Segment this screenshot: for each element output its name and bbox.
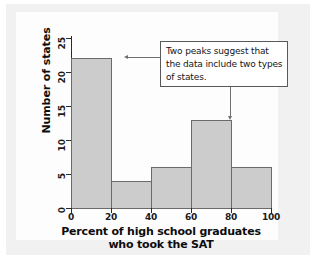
annotation-leader-left [126,57,160,58]
bar-20-40 [111,181,152,209]
y-tick-15 [66,106,71,107]
bar-40-60 [151,167,192,209]
x-tick-label-0: 0 [56,212,86,222]
annotation-line-1: Two peaks suggest that [166,46,269,56]
y-tick-label-5: 5 [50,169,64,179]
annotation-callout: Two peaks suggest that the data include … [160,41,288,87]
x-tick-label-60: 60 [176,212,206,222]
annotation-line-3: of states. [166,72,206,82]
chart-panel: 0 5 10 15 20 25 0 20 40 60 80 100 Number… [16,12,278,240]
y-tick-10 [66,140,71,141]
bar-80-100 [231,167,272,209]
annotation-arrow-left-icon [124,55,128,59]
annotation-text: Two peaks suggest that the data include … [166,45,283,84]
annotation-arrow-down-icon [228,116,232,120]
annotation-line-2: the data include two types [166,59,282,69]
bar-0-20 [71,58,112,209]
x-axis-title: Percent of high school graduates who too… [36,225,286,251]
x-axis-title-line2: who took the SAT [108,238,213,251]
figure-page: 0 5 10 15 20 25 0 20 40 60 80 100 Number… [0,0,316,259]
y-tick-25 [66,38,71,39]
bar-60-80 [191,120,232,209]
y-axis-title: Number of states [40,21,53,141]
annotation-leader-down [230,87,231,118]
x-tick-label-20: 20 [96,212,126,222]
x-axis-title-line1: Percent of high school graduates [61,225,261,238]
y-tick-20 [66,72,71,73]
x-tick-label-100: 100 [256,212,286,222]
x-tick-label-80: 80 [216,212,246,222]
x-tick-label-40: 40 [136,212,166,222]
